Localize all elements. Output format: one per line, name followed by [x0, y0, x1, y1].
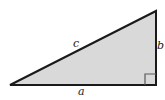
right-triangle-figure: c b a	[0, 0, 165, 100]
base-label: a	[78, 86, 85, 97]
vertical-leg-label: b	[157, 40, 164, 51]
triangle-shape	[10, 11, 156, 85]
hypotenuse-label: c	[73, 38, 79, 49]
